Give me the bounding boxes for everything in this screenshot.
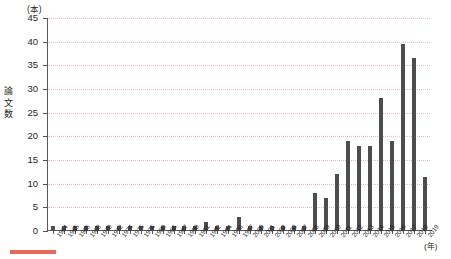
bar bbox=[346, 141, 350, 231]
bar bbox=[390, 141, 394, 231]
bar bbox=[357, 146, 361, 231]
y-axis-tick-label: 45 bbox=[8, 12, 38, 23]
x-axis-caption: (年) bbox=[424, 240, 437, 251]
footer-accent-rule bbox=[10, 250, 56, 254]
y-axis-tick-label: 35 bbox=[8, 59, 38, 70]
y-axis-tick-label: 40 bbox=[8, 36, 38, 47]
bar-series bbox=[48, 18, 430, 231]
bar bbox=[401, 44, 405, 231]
y-axis-tick-label: 20 bbox=[8, 130, 38, 141]
y-axis-tick bbox=[43, 231, 48, 232]
bar bbox=[368, 146, 372, 231]
y-axis-tick-label: 5 bbox=[8, 201, 38, 212]
y-axis-tick-label: 0 bbox=[8, 225, 38, 236]
y-axis-tick-label: 25 bbox=[8, 107, 38, 118]
y-axis-tick-label: 15 bbox=[8, 154, 38, 165]
bar-chart: (本) 論文数 051015202530354045 1964196519661… bbox=[0, 0, 451, 259]
y-axis-tick-label: 10 bbox=[8, 178, 38, 189]
bar bbox=[412, 58, 416, 231]
bar bbox=[379, 98, 383, 231]
y-axis-tick-label: 30 bbox=[8, 83, 38, 94]
